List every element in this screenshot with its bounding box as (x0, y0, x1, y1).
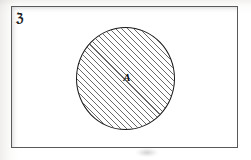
set-a-label: A (118, 69, 136, 85)
universal-set-symbol: ℨ (16, 10, 32, 26)
paper-smudge (136, 148, 158, 157)
set-diagram-figure: ℨ A (0, 0, 251, 160)
